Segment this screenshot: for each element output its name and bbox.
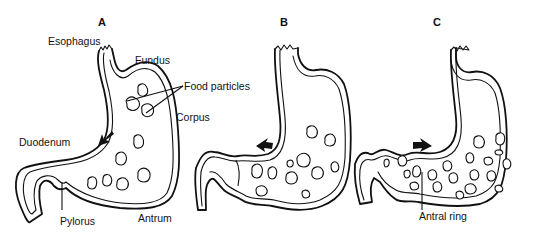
stomach-outer-wall-b — [195, 48, 351, 210]
panel-c-title: C — [433, 16, 441, 28]
label-duodenum: Duodenum — [19, 136, 71, 148]
panel-b: B — [195, 16, 351, 210]
contraction-arrow-b — [256, 138, 273, 152]
panel-a-title: A — [98, 16, 106, 28]
stomach-inner-wall-a — [23, 53, 173, 214]
label-fundus: Fundus — [135, 54, 170, 66]
food-particles-leader-2 — [146, 86, 183, 113]
label-corpus: Corpus — [176, 111, 210, 123]
label-esophagus: Esophagus — [48, 35, 101, 47]
esophagus-top-c — [451, 46, 469, 51]
panel-a: A Esophagus Fundus Food particles — [16, 16, 250, 227]
food-particles-b — [252, 126, 339, 198]
stomach-inner-wall-b — [201, 50, 346, 206]
esophagus-top-a — [99, 45, 112, 51]
panel-c: C Antral ring — [355, 16, 511, 222]
esophagus-top-b — [275, 45, 298, 50]
food-particles-c — [384, 133, 511, 199]
label-food-particles: Food particles — [184, 80, 250, 92]
food-particles-a — [88, 84, 154, 190]
pylorus-line-b — [236, 160, 239, 186]
label-antrum: Antrum — [138, 212, 172, 224]
label-pylorus: Pylorus — [60, 215, 95, 227]
stomach-outer-wall-c — [355, 48, 507, 206]
panel-b-title: B — [280, 16, 288, 28]
gastric-emptying-diagram: A Esophagus Fundus Food particles — [0, 0, 538, 242]
contraction-arrow-c — [413, 138, 432, 152]
label-antral-ring: Antral ring — [419, 210, 467, 222]
